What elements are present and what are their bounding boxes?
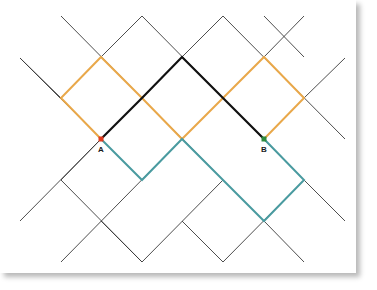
diagram-stage: A B	[0, 0, 377, 290]
lattice-diagram: A B	[0, 0, 377, 290]
grid-line	[304, 58, 345, 98]
grid-line	[101, 16, 142, 57]
grid-line	[182, 221, 223, 262]
grid-line	[182, 16, 223, 57]
highlighted-paths	[61, 57, 304, 221]
point-a-marker	[99, 137, 104, 142]
grid-line	[264, 221, 304, 262]
grid-line	[101, 221, 142, 262]
black-path	[101, 57, 264, 139]
grid-line	[20, 58, 61, 98]
teal-path	[101, 139, 304, 221]
grid-line	[61, 139, 101, 180]
point-b-marker	[262, 137, 267, 142]
point-b-label: B	[261, 145, 267, 154]
orange-path	[61, 57, 304, 139]
grid-line	[304, 180, 345, 221]
point-a-label: A	[98, 145, 104, 154]
